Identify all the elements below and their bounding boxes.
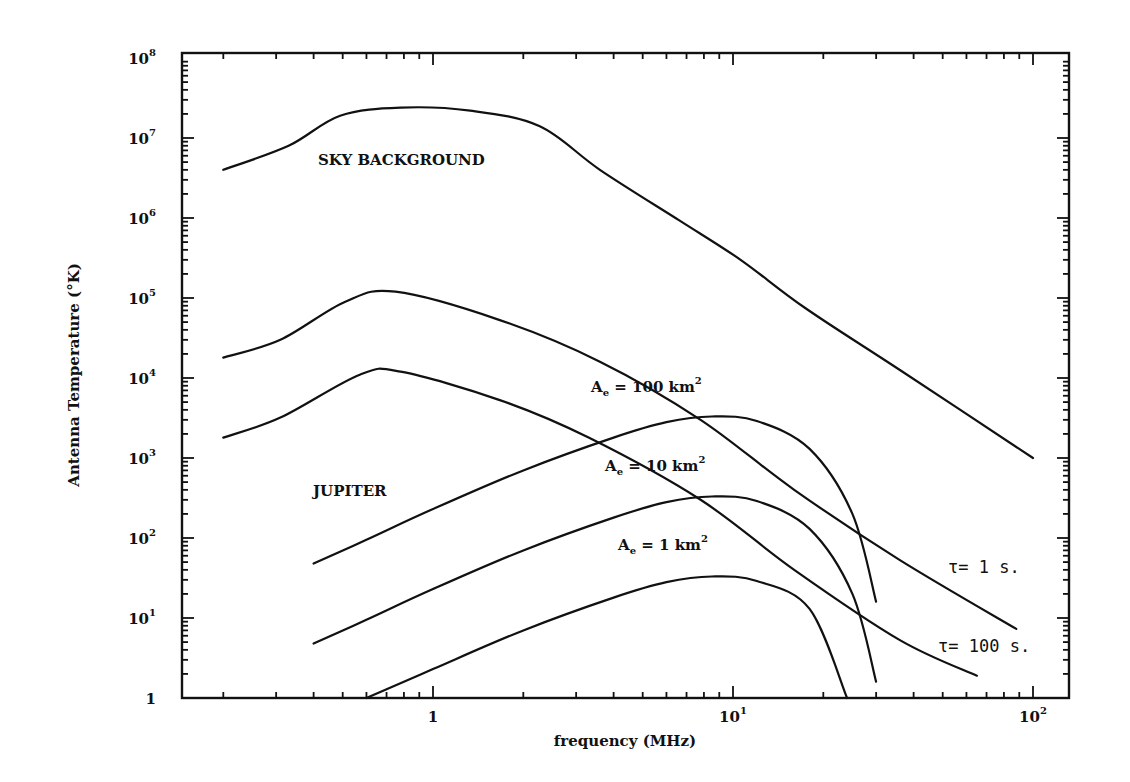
y-tick-labels: 1101102103104105106107108 <box>128 47 156 708</box>
y-axis-title: Antenna Temperature (°K) <box>65 263 83 488</box>
y-tick-label: 101 <box>128 607 156 628</box>
y-tick-label: 103 <box>128 447 156 468</box>
svg-text:Ae = 10 km2: Ae = 10 km2 <box>604 454 705 477</box>
x-tick-label: 1 <box>428 708 438 726</box>
x-axis-title: frequency (MHz) <box>554 732 696 750</box>
ae-100-label: Ae = 100 km2 <box>590 375 702 398</box>
y-tick-label: 102 <box>128 527 156 548</box>
svg-text:Ae = 1 km2: Ae = 1 km2 <box>617 533 708 556</box>
sky-background-label: SKY BACKGROUND <box>318 151 485 169</box>
y-tick-label: 108 <box>128 47 156 68</box>
curves <box>223 107 1033 698</box>
tau-100s-label: τ= 100 s. <box>938 636 1030 656</box>
x-tick-labels: 1101102 <box>428 705 1047 726</box>
y-tick-label: 105 <box>128 287 156 308</box>
curve-jupiter-tau-1-s <box>223 291 1016 629</box>
svg-text:Ae = 100 km2: Ae = 100 km2 <box>590 375 702 398</box>
jupiter-label: JUPITER <box>311 482 387 500</box>
ae-10-label: Ae = 10 km2 <box>604 454 705 477</box>
x-tick-label: 102 <box>1019 705 1047 726</box>
y-tick-label: 107 <box>128 127 156 148</box>
y-tick-label: 104 <box>128 367 156 388</box>
curve-ae-100-km-2 <box>314 416 877 601</box>
chart: 1101102103104105106107108 1101102 freque… <box>0 0 1130 782</box>
tau-1s-label: τ= 1 s. <box>948 557 1020 577</box>
ae-1-label: Ae = 1 km2 <box>617 533 708 556</box>
curve-ae-1-km-2 <box>366 576 847 698</box>
y-tick-label: 1 <box>146 690 156 708</box>
y-tick-label: 106 <box>128 207 156 228</box>
x-tick-label: 101 <box>719 705 747 726</box>
